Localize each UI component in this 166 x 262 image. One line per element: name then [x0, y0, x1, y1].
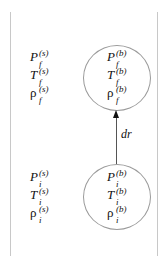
subscript: f [116, 91, 119, 109]
subscript: f [39, 91, 42, 109]
symbol: P [30, 168, 38, 186]
bubble-initial-density: ρ (b) i [107, 204, 114, 222]
symbol: ρ [30, 84, 37, 102]
surroundings-final-pressure: P (s) f [30, 48, 38, 66]
arrow-shaft [116, 116, 117, 164]
symbol: ρ [107, 84, 114, 102]
bubble-final-variables: P (b) f T (b) f ρ (b) f [107, 48, 115, 102]
surroundings-final-temperature: T (s) f [30, 66, 37, 84]
arrow-up-icon [113, 110, 119, 118]
surroundings-final-density: ρ (s) f [30, 84, 37, 102]
symbol: P [30, 48, 38, 66]
bubble-initial-temperature: T (b) i [107, 186, 114, 204]
symbol: P [107, 48, 115, 66]
symbol: T [30, 186, 37, 204]
surroundings-final-variables: P (s) f T (s) f ρ (s) f [30, 48, 38, 102]
symbol: P [107, 168, 115, 186]
symbol: ρ [107, 204, 114, 222]
surroundings-initial-variables: P (s) i T (s) i ρ (s) i [30, 168, 38, 222]
surroundings-initial-pressure: P (s) i [30, 168, 38, 186]
subscript: i [116, 211, 119, 229]
symbol: T [30, 66, 37, 84]
left-boundary-line [10, 12, 11, 256]
surroundings-initial-density: ρ (s) i [30, 204, 37, 222]
symbol: T [107, 186, 114, 204]
bubble-final-temperature: T (b) f [107, 66, 114, 84]
displacement-label: dr [121, 127, 132, 142]
bubble-initial-variables: P (b) i T (b) i ρ (b) i [107, 168, 115, 222]
symbol: ρ [30, 204, 37, 222]
right-boundary-line [157, 12, 158, 256]
symbol: T [107, 66, 114, 84]
surroundings-initial-temperature: T (s) i [30, 186, 37, 204]
bubble-final-density: ρ (b) f [107, 84, 114, 102]
subscript: i [39, 211, 42, 229]
bubble-final-pressure: P (b) f [107, 48, 115, 66]
bubble-initial-pressure: P (b) i [107, 168, 115, 186]
